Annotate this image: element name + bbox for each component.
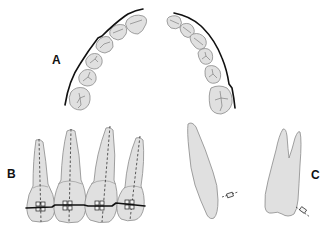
panel-c-profiles xyxy=(188,123,310,219)
panel-label-a: A xyxy=(52,54,61,66)
tooth-c-2 xyxy=(265,129,310,217)
panel-b-teeth xyxy=(26,126,145,223)
panel-a-arch xyxy=(65,9,235,114)
panel-label-b: B xyxy=(7,168,16,180)
tooth-left-4 xyxy=(86,54,103,70)
tooth-left-1 xyxy=(126,15,147,34)
figure-canvas xyxy=(0,0,328,229)
dental-figure: A B C xyxy=(0,0,328,229)
arch-right-teeth xyxy=(167,16,232,114)
panel-label-c: C xyxy=(311,169,320,181)
tooth-right-1 xyxy=(167,16,182,29)
tooth-c-1 xyxy=(188,123,238,219)
tooth-left-3 xyxy=(96,37,113,54)
